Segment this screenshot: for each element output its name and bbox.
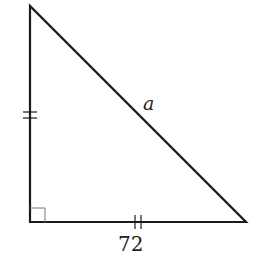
triangle-diagram: a 72 [0, 0, 259, 271]
right-angle-marker [30, 208, 45, 222]
hypotenuse-label: a [143, 92, 154, 114]
right-triangle [30, 6, 246, 222]
bottom-leg-label: 72 [118, 232, 143, 256]
